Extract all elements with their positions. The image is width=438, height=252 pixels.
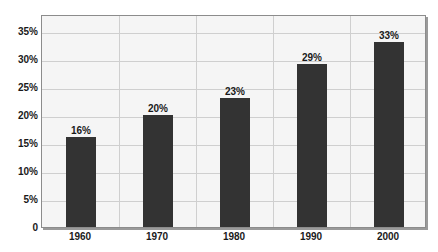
y-axis-tick-label: 30% xyxy=(4,55,38,65)
bar-value-labels-group: 16%20%23%29%33% xyxy=(42,16,425,227)
x-axis-tick-label: 1980 xyxy=(204,231,264,243)
gridline-horizontal xyxy=(42,173,425,174)
gridline-horizontal xyxy=(42,89,425,90)
y-axis-tick-label: 35% xyxy=(4,27,38,37)
y-axis-tick-label: 15% xyxy=(4,139,38,149)
y-axis-tick-label: 10% xyxy=(4,167,38,177)
y-axis-tick-label: 25% xyxy=(4,83,38,93)
bar-value-label: 20% xyxy=(136,103,180,114)
gridlines xyxy=(42,16,425,227)
bar xyxy=(374,42,404,227)
x-axis-tick-label: 2000 xyxy=(358,231,418,243)
y-axis: 05%10%15%20%25%30%35% xyxy=(0,0,38,252)
gridline-horizontal xyxy=(42,117,425,118)
bar xyxy=(220,98,250,227)
gridline-horizontal xyxy=(42,201,425,202)
plot-area: 16%20%23%29%33% xyxy=(41,15,426,228)
bar-value-label: 33% xyxy=(367,30,411,41)
gridline-vertical xyxy=(273,16,274,227)
bar xyxy=(297,64,327,227)
gridline-horizontal xyxy=(42,145,425,146)
bar xyxy=(66,137,96,227)
gridline-vertical xyxy=(350,16,351,227)
x-axis-tick-label: 1960 xyxy=(50,231,110,243)
bar-value-label: 16% xyxy=(59,125,103,136)
y-axis-tick-label: 20% xyxy=(4,111,38,121)
bar-value-label: 23% xyxy=(213,86,257,97)
gridline-horizontal xyxy=(42,33,425,34)
chart-title xyxy=(60,1,180,9)
x-axis: 19601970198019902000 xyxy=(41,231,426,247)
bars-group xyxy=(42,16,425,227)
x-axis-tick-label: 1990 xyxy=(281,231,341,243)
gridline-vertical xyxy=(119,16,120,227)
y-axis-tick-label: 5% xyxy=(4,195,38,205)
bar xyxy=(143,115,173,227)
y-axis-tick-label: 0 xyxy=(4,223,38,233)
gridline-vertical xyxy=(196,16,197,227)
gridline-horizontal xyxy=(42,61,425,62)
bar-chart-figure: 05%10%15%20%25%30%35% 16%20%23%29%33% 19… xyxy=(0,0,438,252)
x-axis-tick-label: 1970 xyxy=(127,231,187,243)
bar-value-label: 29% xyxy=(290,52,334,63)
